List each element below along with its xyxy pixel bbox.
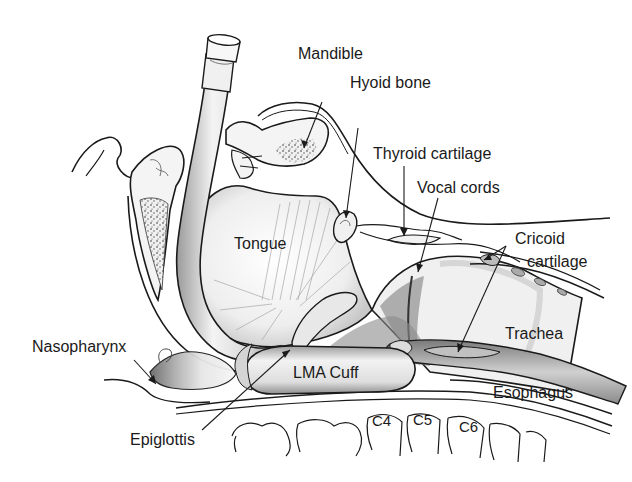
lma-anatomy-diagram: Mandible Hyoid bone Thyroid cartilage Vo… [0,0,632,482]
label-thyroid-cartilage: Thyroid cartilage [373,146,491,162]
label-c6: C6 [459,419,478,434]
label-c4: C4 [372,413,391,428]
label-cricoid-line2: cartilage [527,254,587,270]
label-mandible: Mandible [298,46,363,62]
label-lma-cuff: LMA Cuff [293,365,359,381]
label-epiglottis: Epiglottis [130,432,195,448]
label-c5: C5 [413,412,432,427]
label-hyoid-bone: Hyoid bone [350,75,431,91]
label-esophagus: Esophagus [493,385,573,401]
label-vocal-cords: Vocal cords [417,180,500,196]
label-cricoid-line1: Cricoid [515,231,565,247]
label-tongue: Tongue [234,236,287,252]
label-trachea: Trachea [505,326,563,342]
label-nasopharynx: Nasopharynx [32,339,126,355]
